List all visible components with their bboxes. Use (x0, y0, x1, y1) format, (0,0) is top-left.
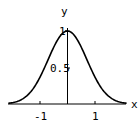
y-tick-label-one: 1 (59, 25, 66, 38)
x-tick-label-pos1: 1 (92, 110, 99, 123)
y-axis-label: y (61, 5, 68, 18)
x-axis-label: x (131, 98, 138, 111)
gaussian-chart: y x -1 1 0.5 1 (0, 0, 140, 128)
x-tick-label-neg1: -1 (34, 110, 47, 123)
y-tick-label-half: 0.5 (50, 62, 70, 75)
